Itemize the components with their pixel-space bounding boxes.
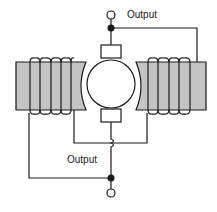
top-junction-dot [108, 25, 115, 32]
top-output-terminal[interactable] [107, 11, 115, 19]
bottom-junction-dot [108, 175, 115, 182]
top-output-label: Output [127, 10, 157, 20]
bottom-brush [101, 109, 121, 122]
top-feed-wire [111, 28, 197, 62]
bottom-output-terminal[interactable] [107, 189, 115, 197]
top-brush [101, 45, 121, 58]
armature [87, 60, 135, 108]
left-return-wire [29, 113, 111, 178]
bottom-output-label: Output [67, 155, 97, 165]
right-pole-piece [136, 62, 206, 110]
dc-generator-diagram: Output Output [0, 0, 217, 212]
